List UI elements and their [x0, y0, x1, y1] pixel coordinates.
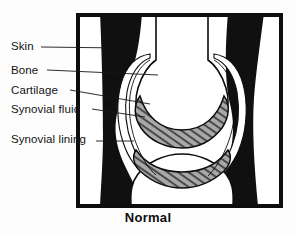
- label-bone: Bone: [11, 65, 38, 77]
- label-cartilage: Cartilage: [11, 85, 58, 97]
- label-synovial-lining: Synovial lining: [11, 134, 86, 146]
- label-synovial-fluid: Synovial fluid: [11, 104, 80, 116]
- figure-caption: Normal: [0, 210, 296, 225]
- joint-cross-section-illustration: [0, 0, 296, 235]
- figure-normal-joint: Skin Bone Cartilage Synovial fluid Synov…: [0, 0, 296, 235]
- label-skin: Skin: [11, 41, 34, 53]
